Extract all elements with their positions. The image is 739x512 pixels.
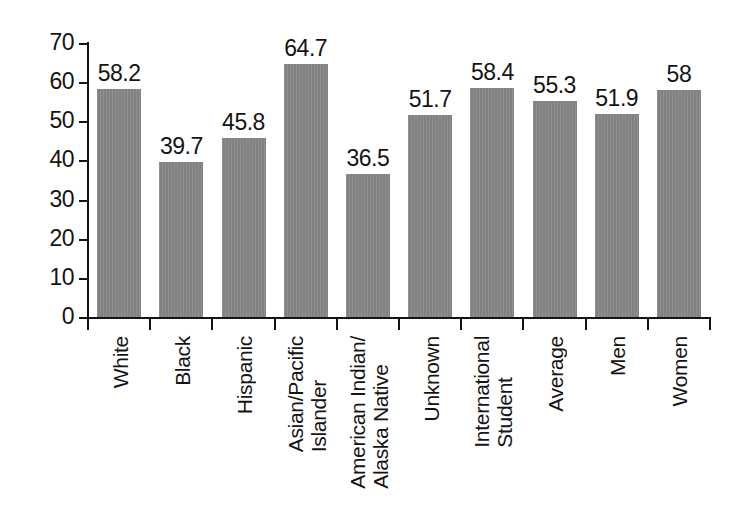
x-axis-category-label: Asian/PacificIslander	[284, 336, 330, 452]
y-axis-tick-label: 70	[49, 30, 74, 55]
x-axis-tick	[398, 319, 400, 330]
bar-value-label: 58.2	[98, 61, 141, 85]
bar-value-label: 64.7	[284, 36, 327, 60]
bar-value-label: 55.3	[533, 73, 576, 97]
x-axis-tick	[709, 319, 711, 330]
y-axis-tick-label: 10	[49, 265, 74, 290]
x-axis-tick	[149, 319, 151, 330]
bar: 45.8	[222, 138, 266, 317]
bar-value-label: 58.4	[471, 60, 514, 84]
bar: 55.3	[533, 101, 577, 317]
bar: 51.7	[408, 115, 452, 317]
x-axis-category-label-line: Student	[493, 336, 516, 448]
x-axis-tick	[336, 319, 338, 330]
x-axis-category-label: Unknown	[420, 336, 443, 421]
y-axis-tick-label: 60	[49, 69, 74, 94]
x-axis-category-label-line: Islander	[307, 336, 330, 452]
bar: 39.7	[159, 162, 203, 317]
x-axis-tick	[274, 319, 276, 330]
x-axis-category-label-line: Men	[606, 336, 629, 376]
bar-value-label: 39.7	[160, 134, 203, 158]
x-axis-category-label-line: International	[470, 336, 493, 448]
x-axis-tick	[87, 319, 89, 330]
bar-chart: 70605040302010058.239.745.864.736.551.75…	[0, 0, 739, 512]
y-axis-tick-label: 40	[49, 147, 74, 172]
x-axis-category-label: White	[109, 336, 132, 388]
plot-area: 70605040302010058.239.745.864.736.551.75…	[88, 43, 710, 317]
bar-value-label: 45.8	[222, 110, 265, 134]
bar-value-label: 51.9	[595, 86, 638, 110]
x-axis-tick	[522, 319, 524, 330]
x-axis-tick	[460, 319, 462, 330]
y-axis-tick: 60	[79, 82, 89, 84]
bar-value-label: 51.7	[409, 87, 452, 111]
x-axis-category-label-line: Alaska Native	[369, 336, 392, 489]
x-axis-category-label-line: Asian/Pacific	[284, 336, 307, 452]
x-axis-category-label-line: Average	[544, 336, 567, 412]
y-axis-tick: 50	[79, 121, 89, 123]
x-axis-category-label: Average	[544, 336, 567, 412]
bar: 58	[657, 90, 701, 317]
bar: 51.9	[595, 114, 639, 317]
x-axis-category-label: American Indian/Alaska Native	[346, 336, 392, 489]
x-axis-category-label-line: Unknown	[420, 336, 443, 421]
y-axis-tick-label: 50	[49, 108, 74, 133]
bar-value-label: 36.5	[347, 146, 390, 170]
y-axis-tick: 20	[79, 239, 89, 241]
y-axis-tick: 70	[79, 43, 89, 45]
y-axis-tick-label: 0	[62, 304, 74, 329]
y-axis-tick: 40	[79, 160, 89, 162]
x-axis-category-label-line: White	[109, 336, 132, 388]
x-axis-category-label: Men	[606, 336, 629, 376]
y-axis-tick: 30	[79, 200, 89, 202]
x-axis-category-label: Hispanic	[233, 336, 256, 414]
x-axis-category-label: InternationalStudent	[470, 336, 516, 448]
bar: 58.2	[97, 89, 141, 317]
bar-value-label: 58	[667, 62, 692, 86]
y-axis-tick: 10	[79, 278, 89, 280]
x-axis-category-label: Black	[171, 336, 194, 386]
x-axis-tick	[585, 319, 587, 330]
x-axis-tick	[211, 319, 213, 330]
bar: 64.7	[284, 64, 328, 317]
x-axis-category-label: Women	[668, 336, 691, 406]
x-axis-category-label-line: Black	[171, 336, 194, 386]
bar: 36.5	[346, 174, 390, 317]
x-axis-category-label-line: Hispanic	[233, 336, 256, 414]
x-axis-tick	[647, 319, 649, 330]
x-axis-category-label-line: Women	[668, 336, 691, 406]
x-axis-category-label-line: American Indian/	[346, 336, 369, 489]
y-axis-tick-label: 30	[49, 187, 74, 212]
y-axis-tick-label: 20	[49, 226, 74, 251]
bar: 58.4	[470, 88, 514, 317]
